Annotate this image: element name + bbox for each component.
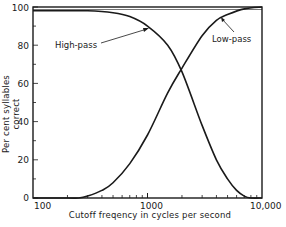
low-pass-label: Low-pass bbox=[212, 34, 251, 44]
y-tick-label-100: 100 bbox=[7, 3, 29, 13]
x-axis-label: Cutoff freqency in cycles per second bbox=[40, 210, 260, 220]
y-axis-label: Per cent syllables correct bbox=[1, 59, 21, 169]
y-tick-label-80: 80 bbox=[7, 41, 29, 51]
high-pass-label: High-pass bbox=[55, 40, 97, 50]
y-axis-ticks bbox=[33, 7, 38, 198]
high-pass-arrowhead-icon bbox=[143, 28, 149, 32]
y-tick-label-0: 0 bbox=[7, 193, 29, 203]
high-pass-arrow bbox=[101, 29, 147, 43]
chart-container: 100 80 60 40 20 0 100 1000 10,000 Per ce… bbox=[0, 0, 286, 227]
low-pass-arrow bbox=[222, 19, 234, 32]
